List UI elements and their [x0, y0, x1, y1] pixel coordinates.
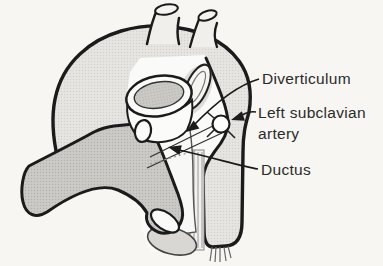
label-left-subclavian-line2: artery	[258, 125, 299, 142]
anatomy-diagram: Diverticulum Left subclavian artery Duct…	[0, 0, 383, 266]
scanned-figure-page: Diverticulum Left subclavian artery Duct…	[0, 0, 383, 266]
label-ductus: Ductus	[261, 161, 311, 178]
label-left-subclavian-line1: Left subclavian	[258, 104, 366, 121]
label-diverticulum: Diverticulum	[262, 70, 351, 87]
